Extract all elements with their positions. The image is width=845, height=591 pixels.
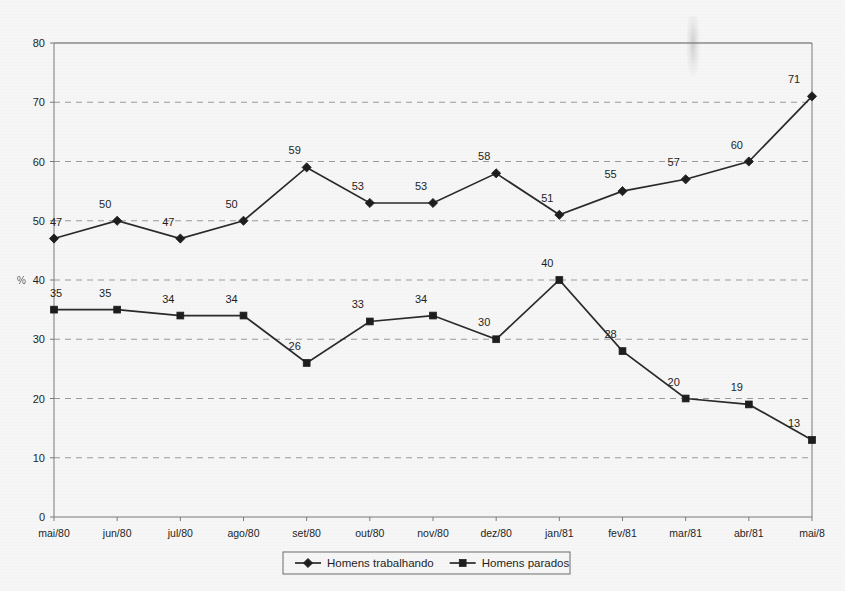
data-label-s0-p7: 58: [478, 150, 490, 162]
data-label-s0-p11: 60: [731, 139, 743, 151]
y-tick-label-30: 30: [33, 333, 45, 345]
data-label-s1-p3: 34: [225, 293, 237, 305]
x-tick-label-11: abr/81: [734, 527, 764, 539]
series-1-point-8: [556, 277, 563, 284]
data-label-s0-p0: 47: [50, 216, 62, 228]
data-label-s1-p7: 30: [478, 316, 490, 328]
series-1-point-10: [682, 395, 689, 402]
data-label-s1-p2: 34: [162, 293, 174, 305]
data-label-s1-p5: 33: [352, 298, 364, 310]
chart-page: 01020304050607080 % mai/80jun/80jul/80ag…: [0, 0, 845, 591]
y-tick-label-0: 0: [39, 511, 45, 523]
x-tick-label-6: nov/80: [417, 527, 449, 539]
series-1-point-4: [303, 360, 310, 367]
series-1-point-11: [745, 401, 752, 408]
data-label-s0-p10: 57: [668, 156, 680, 168]
y-axis-unit: %: [17, 275, 26, 286]
series-1-point-2: [177, 312, 184, 319]
data-label-s0-p9: 55: [604, 168, 616, 180]
data-label-s0-p6: 53: [415, 180, 427, 192]
series-1-point-3: [240, 312, 247, 319]
legend-label-1: Homens parados: [482, 557, 570, 569]
x-tick-label-4: set/80: [292, 527, 321, 539]
data-label-s0-p12: 71: [788, 73, 800, 85]
data-label-s1-p8: 40: [541, 257, 553, 269]
data-label-s0-p1: 50: [99, 198, 111, 210]
series-1-point-5: [366, 318, 373, 325]
y-tick-label-10: 10: [33, 452, 45, 464]
data-label-s0-p4: 59: [289, 144, 301, 156]
x-tick-label-12: mai/8: [799, 527, 825, 539]
data-label-s1-p6: 34: [415, 293, 427, 305]
series-1-point-1: [114, 306, 121, 313]
data-label-s0-p5: 53: [352, 180, 364, 192]
y-tick-label-80: 80: [33, 37, 45, 49]
y-tick-label-70: 70: [33, 96, 45, 108]
data-label-s1-p9: 28: [604, 328, 616, 340]
y-tick-label-20: 20: [33, 393, 45, 405]
y-axis-unit-label: %: [17, 275, 26, 286]
data-label-s0-p8: 51: [541, 192, 553, 204]
data-label-s0-p2: 47: [162, 216, 174, 228]
series-1-point-9: [619, 348, 626, 355]
x-tick-label-5: out/80: [355, 527, 384, 539]
series-1-point-7: [493, 336, 500, 343]
y-tick-label-40: 40: [33, 274, 45, 286]
x-tick-label-9: fev/81: [608, 527, 637, 539]
x-tick-label-1: jun/80: [102, 527, 132, 539]
data-label-s1-p0: 35: [50, 287, 62, 299]
x-tick-label-0: mai/80: [38, 527, 70, 539]
data-label-s1-p4: 26: [289, 340, 301, 352]
y-tick-label-50: 50: [33, 215, 45, 227]
x-tick-label-10: mar/81: [669, 527, 702, 539]
series-1-point-12: [809, 437, 816, 444]
series-1-point-6: [430, 312, 437, 319]
data-label-s1-p12: 13: [788, 417, 800, 429]
x-tick-label-3: ago/80: [227, 527, 259, 539]
data-label-s1-p10: 20: [668, 376, 680, 388]
data-label-s1-p11: 19: [731, 381, 743, 393]
data-label-s1-p1: 35: [99, 287, 111, 299]
y-tick-label-60: 60: [33, 156, 45, 168]
x-tick-label-7: dez/80: [480, 527, 512, 539]
x-tick-label-2: jul/80: [167, 527, 193, 539]
series-1-point-0: [51, 306, 58, 313]
x-tick-label-8: jan/81: [544, 527, 574, 539]
data-label-s0-p3: 50: [225, 198, 237, 210]
legend-label-0: Homens trabalhando: [327, 557, 434, 569]
line-chart: 01020304050607080 % mai/80jun/80jul/80ag…: [0, 0, 845, 591]
legend-marker-square-icon: [459, 560, 466, 567]
